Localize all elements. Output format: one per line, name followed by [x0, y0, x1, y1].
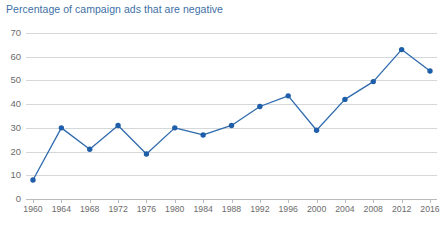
data-point-marker [30, 177, 35, 182]
data-point-marker [399, 47, 404, 52]
data-point-marker [229, 123, 234, 128]
y-axis-tick-label: 20 [0, 147, 21, 156]
x-axis-tick-mark [90, 199, 91, 203]
data-point-marker [115, 123, 120, 128]
x-axis-tick-mark [203, 199, 204, 203]
data-point-marker [342, 97, 347, 102]
x-axis-tick-mark [373, 199, 374, 203]
x-axis-tick-mark [288, 199, 289, 203]
series-line [33, 50, 430, 180]
y-axis-tick-label: 50 [0, 75, 21, 84]
data-point-marker [144, 151, 149, 156]
data-point-marker [371, 79, 376, 84]
x-axis-tick-mark [345, 199, 346, 203]
y-axis-tick-label: 60 [0, 52, 21, 61]
x-axis-tick-mark [61, 199, 62, 203]
x-axis-tick-mark [260, 199, 261, 203]
x-axis-tick-mark [175, 199, 176, 203]
data-point-marker [314, 128, 319, 133]
x-axis-tick-mark [146, 199, 147, 203]
data-point-marker [427, 68, 432, 73]
line-series-layer [26, 33, 437, 199]
data-point-marker [87, 147, 92, 152]
data-point-marker [59, 125, 64, 130]
data-point-marker [286, 93, 291, 98]
chart-title: Percentage of campaign ads that are nega… [6, 3, 223, 15]
x-axis-tick-mark [33, 199, 34, 203]
x-axis-tick-label: 2016 [413, 205, 443, 214]
data-point-marker [172, 125, 177, 130]
x-axis-tick-mark [317, 199, 318, 203]
y-axis-tick-label: 40 [0, 99, 21, 108]
x-axis-tick-mark [232, 199, 233, 203]
chart-container: Percentage of campaign ads that are nega… [0, 0, 443, 234]
y-axis-tick-label: 0 [0, 194, 21, 203]
y-axis-tick-label: 10 [0, 170, 21, 179]
x-axis-tick-mark [118, 199, 119, 203]
y-axis-tick-label: 70 [0, 28, 21, 37]
data-point-marker [200, 132, 205, 137]
data-point-marker [257, 104, 262, 109]
y-axis-tick-label: 30 [0, 123, 21, 132]
x-axis-tick-mark [430, 199, 431, 203]
x-axis-tick-mark [402, 199, 403, 203]
